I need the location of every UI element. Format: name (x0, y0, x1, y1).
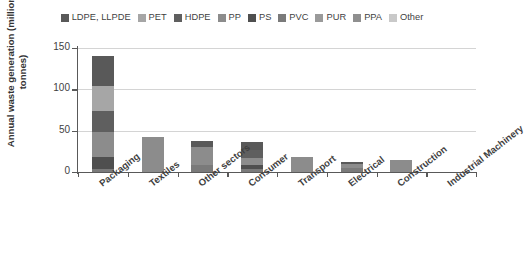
x-axis-tick-mark (128, 172, 129, 177)
y-axis-tick-label: 100 (0, 82, 70, 93)
legend-item-label: Other (400, 13, 423, 22)
legend-swatch-icon (315, 14, 323, 22)
bar-segment (191, 147, 213, 165)
bar-textiles[interactable] (142, 137, 164, 172)
legend-item-label: PET (149, 13, 167, 22)
bar-segment (241, 158, 263, 165)
legend-item-label: PPA (364, 13, 382, 22)
y-axis-tick-mark (72, 48, 78, 49)
bar-segment (92, 86, 114, 111)
legend-item-pur[interactable]: PUR (315, 13, 346, 22)
bar-packaging[interactable] (92, 56, 114, 172)
legend-item-pp[interactable]: PP (218, 13, 241, 22)
legend-item-label: PP (229, 13, 241, 22)
x-axis-tick-mark (327, 172, 328, 177)
legend-item-label: PS (259, 13, 271, 22)
legend-item-label: LDPE, LLPDE (72, 13, 131, 22)
y-axis-tick-label: 50 (0, 124, 70, 135)
legend-swatch-icon (218, 14, 226, 22)
y-axis-tick-label: 150 (0, 41, 70, 52)
y-axis-tick-mark (72, 89, 78, 90)
gridline (78, 48, 476, 49)
bar-segment (142, 137, 164, 172)
legend-item-hdpe[interactable]: HDPE (174, 13, 211, 22)
bar-segment (191, 141, 213, 148)
y-axis-tick-mark (72, 131, 78, 132)
legend-item-other[interactable]: Other (389, 13, 423, 22)
y-axis-tick-labels: 050100150 (0, 0, 70, 278)
legend-item-label: PUR (326, 13, 346, 22)
chart-legend: LDPE, LLPDEPETHDPEPPPSPVCPURPPAOther (0, 13, 484, 22)
gridline (78, 131, 476, 132)
gridline (78, 89, 476, 90)
bar-segment (92, 132, 114, 157)
x-axis-tick-mark (227, 172, 228, 177)
legend-item-ppa[interactable]: PPA (353, 13, 382, 22)
legend-item-label: PVC (289, 13, 308, 22)
y-axis-tick-mark (72, 172, 78, 173)
legend-item-pet[interactable]: PET (138, 13, 167, 22)
y-axis-tick-label: 0 (0, 165, 70, 176)
legend-swatch-icon (353, 14, 361, 22)
x-axis-tick-mark (277, 172, 278, 177)
legend-item-label: HDPE (185, 13, 211, 22)
legend-swatch-icon (389, 14, 397, 22)
x-axis-tick-mark (476, 172, 477, 177)
bar-segment (92, 56, 114, 86)
legend-swatch-icon (138, 14, 146, 22)
legend-item-pvc[interactable]: PVC (278, 13, 308, 22)
legend-swatch-icon (248, 14, 256, 22)
x-axis-tick-mark (178, 172, 179, 177)
legend-item-ps[interactable]: PS (248, 13, 271, 22)
x-axis-tick-mark (377, 172, 378, 177)
x-axis-tick-mark (426, 172, 427, 177)
bar-segment (92, 157, 114, 169)
bar-segment (92, 111, 114, 132)
legend-swatch-icon (278, 14, 286, 22)
x-axis-tick-mark (78, 172, 79, 177)
legend-item-ldpe-llpde[interactable]: LDPE, LLPDE (61, 13, 131, 22)
legend-swatch-icon (174, 14, 182, 22)
